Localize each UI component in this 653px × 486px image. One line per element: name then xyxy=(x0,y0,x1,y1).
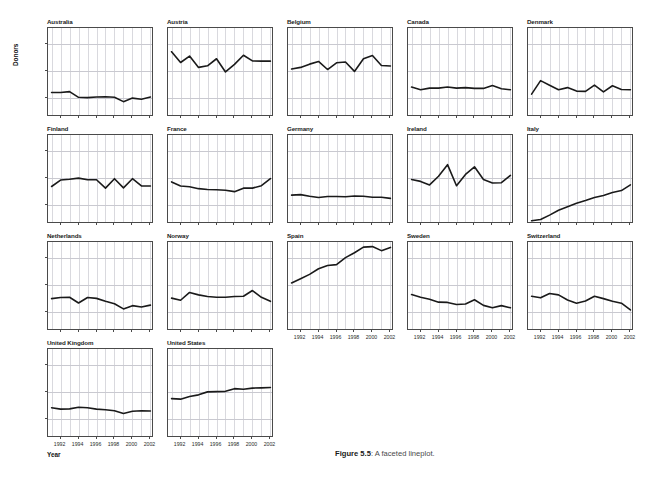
series-line xyxy=(48,242,153,330)
facet-title: Canada xyxy=(407,18,429,26)
x-axis-tick-mark xyxy=(180,330,181,332)
x-axis-tick-mark xyxy=(131,330,132,332)
facet-panel xyxy=(287,134,393,223)
x-axis-tick-mark xyxy=(456,116,457,118)
y-axis-tick-mark xyxy=(45,257,47,258)
x-axis-tick-mark xyxy=(60,437,61,439)
series-line xyxy=(168,28,273,116)
x-axis-tick-mark xyxy=(438,116,439,118)
figure-caption: Figure 5.5: A faceted lineplot. xyxy=(335,449,435,458)
facet-panel xyxy=(167,134,273,223)
y-axis-tick-mark xyxy=(45,97,47,98)
x-axis-tick-mark xyxy=(336,330,337,332)
series-line xyxy=(408,242,513,330)
facet-panel xyxy=(47,348,153,437)
x-axis-tick-mark xyxy=(198,116,199,118)
x-axis-tick-mark xyxy=(149,116,150,118)
facet-title: Belgium xyxy=(287,18,311,26)
facet-title: Sweden xyxy=(407,232,430,240)
x-axis-tick-mark xyxy=(389,116,390,118)
facet-title: Italy xyxy=(527,125,539,133)
facet-panel xyxy=(167,348,273,437)
x-axis-tick-mark xyxy=(540,223,541,225)
x-axis-tick-mark xyxy=(318,223,319,225)
x-axis-tick-mark xyxy=(78,330,79,332)
facet-title: France xyxy=(167,125,187,133)
x-axis-tick-mark xyxy=(371,330,372,332)
x-axis-tick-mark xyxy=(611,116,612,118)
x-axis-tick-mark xyxy=(540,116,541,118)
x-axis-tick-mark xyxy=(180,116,181,118)
figure-faceted-lineplot: Australia102030AustriaBelgiumCanadaDenma… xyxy=(0,0,653,486)
x-axis-tick-mark xyxy=(371,116,372,118)
facet-title: Denmark xyxy=(527,18,553,26)
y-axis-tick-mark xyxy=(45,311,47,312)
x-axis-tick-mark xyxy=(629,116,630,118)
series-line xyxy=(528,28,633,116)
x-axis-tick-mark xyxy=(300,330,301,332)
y-axis-tick-mark xyxy=(45,391,47,392)
x-axis-tick-label: 2000 xyxy=(606,334,618,340)
series-line xyxy=(288,242,393,330)
x-axis-tick-label: 2000 xyxy=(246,441,258,447)
x-axis-tick-mark xyxy=(269,116,270,118)
x-axis-tick-mark xyxy=(420,330,421,332)
x-axis-tick-label: 2002 xyxy=(264,441,276,447)
x-axis-tick-mark xyxy=(576,116,577,118)
x-axis-tick-mark xyxy=(233,116,234,118)
x-axis-tick-mark xyxy=(300,223,301,225)
facet-panel xyxy=(407,241,513,330)
x-axis-tick-mark xyxy=(216,330,217,332)
caption-label: Figure 5.5 xyxy=(335,449,371,458)
x-axis-tick-label: 1992 xyxy=(414,334,426,340)
x-axis-tick-mark xyxy=(318,116,319,118)
facet-title: Australia xyxy=(47,18,73,26)
x-axis-tick-mark xyxy=(371,223,372,225)
x-axis-tick-label: 1998 xyxy=(588,334,600,340)
x-axis-tick-mark xyxy=(96,330,97,332)
x-axis-tick-mark xyxy=(96,116,97,118)
y-axis-tick-mark xyxy=(45,150,47,151)
x-axis-tick-mark xyxy=(456,223,457,225)
x-axis-tick-label: 1992 xyxy=(174,441,186,447)
x-axis-tick-mark xyxy=(629,223,630,225)
x-axis-tick-mark xyxy=(78,116,79,118)
x-axis-tick-label: 2002 xyxy=(504,334,516,340)
x-axis-tick-mark xyxy=(438,223,439,225)
x-axis-tick-mark xyxy=(473,330,474,332)
x-axis-tick-label: 2000 xyxy=(126,441,138,447)
x-axis-tick-label: 1998 xyxy=(468,334,480,340)
x-axis-tick-mark xyxy=(251,116,252,118)
series-line xyxy=(288,28,393,116)
facet-title: Norway xyxy=(167,232,189,240)
x-axis-tick-mark xyxy=(60,223,61,225)
x-axis-tick-mark xyxy=(113,437,114,439)
y-axis-tick-mark xyxy=(45,284,47,285)
facet-panel xyxy=(47,134,153,223)
x-axis-tick-mark xyxy=(576,330,577,332)
x-axis-tick-label: 1994 xyxy=(432,334,444,340)
x-axis-tick-label: 1996 xyxy=(90,441,102,447)
x-axis-tick-mark xyxy=(149,330,150,332)
x-axis-tick-mark xyxy=(269,223,270,225)
y-axis-tick-mark xyxy=(45,418,47,419)
series-line xyxy=(408,28,513,116)
x-axis-tick-mark xyxy=(558,330,559,332)
facet-panel xyxy=(527,241,633,330)
series-line xyxy=(48,349,153,437)
x-axis-tick-mark xyxy=(300,116,301,118)
facet-panel xyxy=(287,241,393,330)
x-axis-tick-mark xyxy=(113,223,114,225)
x-axis-tick-label: 1994 xyxy=(312,334,324,340)
x-axis-tick-mark xyxy=(149,437,150,439)
facet-panel xyxy=(407,134,513,223)
x-axis-tick-mark xyxy=(216,437,217,439)
x-axis-tick-mark xyxy=(60,330,61,332)
x-axis-tick-label: 1992 xyxy=(534,334,546,340)
series-line xyxy=(48,135,153,223)
x-axis-tick-mark xyxy=(420,116,421,118)
facet-title: Finland xyxy=(47,125,68,133)
x-axis-tick-mark xyxy=(420,223,421,225)
x-axis-tick-mark xyxy=(131,223,132,225)
x-axis-tick-mark xyxy=(389,223,390,225)
